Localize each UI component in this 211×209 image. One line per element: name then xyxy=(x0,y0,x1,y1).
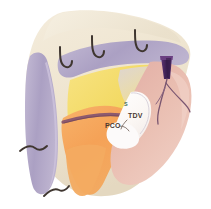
label-small-green: S xyxy=(124,101,128,107)
label-pco: PCO xyxy=(105,122,121,129)
illustration-figure: PCO TDV S xyxy=(0,0,211,209)
label-tdv: TDV xyxy=(128,112,143,119)
anatomical-illustration-svg: PCO TDV S xyxy=(0,0,211,209)
